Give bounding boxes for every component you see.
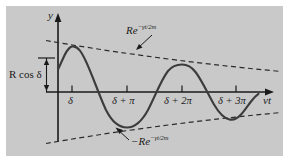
upper-envelope-curve [46, 41, 281, 72]
damped-oscillation-curve [58, 46, 259, 127]
x-tick-label-delta-plus-2pi: δ + 2π [164, 96, 192, 107]
upper-label-leader [136, 35, 152, 50]
y-axis-label: y [48, 10, 53, 21]
lower-envelope-base: −Re [131, 135, 150, 147]
x-axis-label: νt [263, 95, 271, 106]
amplitude-arrowhead-up [44, 59, 49, 65]
lower-label-leader [116, 128, 130, 141]
lower-envelope-label: −Re−γt/2m [131, 136, 169, 147]
lower-envelope-exponent: −γt/2m [150, 134, 169, 141]
axes-group [46, 13, 274, 142]
amplitude-label-text: R cos δ [9, 68, 42, 80]
amplitude-label: R cos δ [9, 69, 42, 80]
upper-envelope-base: Re [126, 24, 138, 36]
upper-envelope-label: Re−γt/2m [126, 25, 156, 36]
upper-envelope-exponent: −γt/2m [138, 23, 157, 30]
figure-root: y νt R cos δ δ δ + π δ + 2π δ + 3π Re−γt… [0, 0, 289, 162]
x-tick-label-delta: δ [68, 96, 73, 107]
x-tick-label-delta-plus-3pi: δ + 3π [218, 96, 246, 107]
amplitude-arrowhead-down [44, 85, 49, 91]
y-axis-arrowhead [55, 13, 62, 22]
x-tick-label-delta-plus-pi: δ + π [112, 96, 134, 107]
